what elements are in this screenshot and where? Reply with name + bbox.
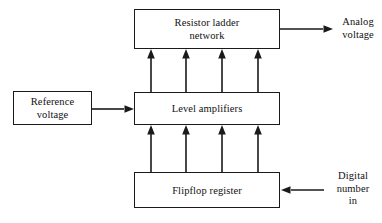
- arrow-ladder-to-analog-voltage: [280, 25, 333, 33]
- arrow-register-to-amplifiers-2: [182, 125, 190, 172]
- box-reference-voltage[interactable]: Reference voltage: [13, 91, 92, 125]
- arrow-amplifiers-to-ladder-3: [218, 49, 226, 92]
- arrow-register-to-amplifiers-4: [254, 125, 262, 172]
- box-resistor-ladder-network[interactable]: Resistor ladder network: [134, 9, 280, 49]
- arrow-register-to-amplifiers-1: [147, 125, 155, 172]
- box-label-reference-voltage: Reference voltage: [31, 95, 74, 121]
- box-label-level-amplifiers: Level amplifiers: [172, 102, 243, 115]
- box-label-resistor-ladder-network: Resistor ladder network: [175, 16, 240, 42]
- box-label-flipflop-register: Flipflop register: [172, 184, 242, 197]
- label-analog-voltage: Analog voltage: [334, 16, 382, 41]
- arrow-amplifiers-to-ladder-1: [147, 49, 155, 92]
- arrow-register-to-amplifiers-3: [218, 125, 226, 172]
- block-diagram: Resistor ladder network Level amplifiers…: [0, 0, 382, 223]
- label-digital-number-in: Digital number in: [327, 170, 379, 208]
- arrow-digital-number-to-register: [281, 186, 324, 194]
- box-flipflop-register[interactable]: Flipflop register: [134, 172, 280, 208]
- arrow-amplifiers-to-ladder-2: [182, 49, 190, 92]
- arrow-amplifiers-to-ladder-4: [254, 49, 262, 92]
- arrow-reference-to-amplifiers: [92, 105, 134, 113]
- box-level-amplifiers[interactable]: Level amplifiers: [134, 92, 280, 125]
